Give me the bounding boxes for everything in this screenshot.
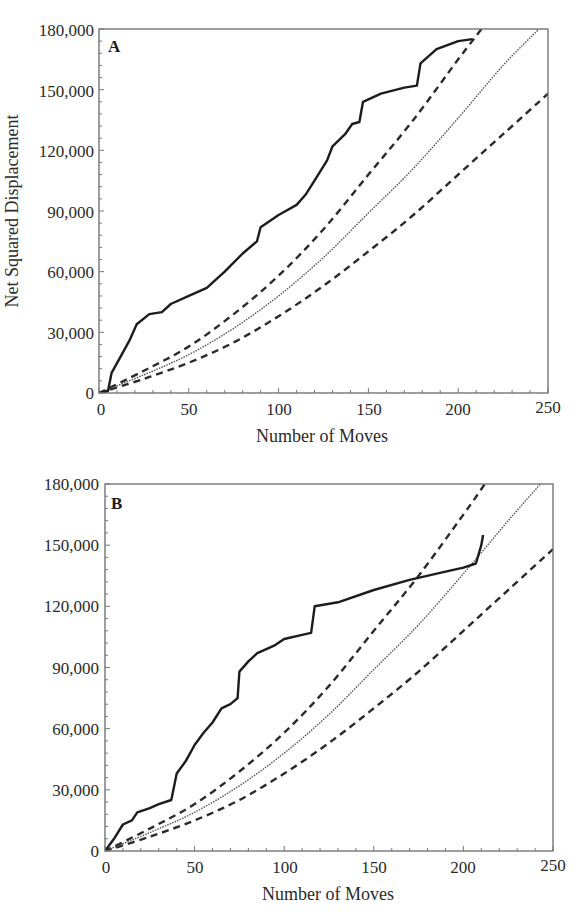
y-tick-label: 60,000 [52,720,99,739]
expected-line [99,29,539,393]
y-tick-labels: 0 30,000 60,000 90,000 120,000 150,000 1… [39,21,94,403]
y-tick-label: 90,000 [47,203,94,222]
series-group [105,484,553,851]
x-tick-label: 50 [181,400,198,419]
observed-line [99,39,473,393]
x-tick-label: 250 [535,398,561,417]
figure: A 0 30,000 60,000 90,000 120,000 150,000… [0,0,585,921]
y-tick-label: 0 [86,384,95,403]
x-tick-label: 200 [445,400,471,419]
x-tick-label: 150 [356,400,382,419]
x-tick-label: 250 [540,856,566,875]
lower-bound-line [99,94,548,393]
x-tick-label: 0 [102,858,111,877]
x-tick-label: 150 [361,858,387,877]
x-tick-label: 100 [272,858,298,877]
y-axis-title: Net Squared Displacement [2,115,22,308]
y-tick-label: 30,000 [47,324,94,343]
y-tick-labels: 0 30,000 60,000 90,000 120,000 150,000 1… [44,475,99,861]
expected-line [105,484,541,851]
y-tick-label: 150,000 [39,82,94,101]
upper-bound-line [105,484,485,851]
y-tick-label: 150,000 [44,536,99,555]
lower-bound-line [105,549,553,851]
y-tick-label: 60,000 [47,263,94,282]
x-axis-title: Number of Moves [262,884,394,904]
y-tick-label: 120,000 [44,597,99,616]
series-group [99,29,548,393]
y-tick-label: 0 [91,842,100,861]
panel-label: A [108,37,121,56]
x-tick-labels: 0 50 100 150 200 250 [97,398,561,419]
observed-line [105,535,483,851]
panel-label: B [111,494,122,513]
plot-frame [99,29,548,393]
y-tick-label: 90,000 [52,659,99,678]
x-tick-label: 50 [187,858,204,877]
y-tick-label: 120,000 [39,142,94,161]
x-tick-label: 0 [97,400,106,419]
x-tick-labels: 0 50 100 150 200 250 [102,856,566,877]
chart-panel-b: B 0 30,000 60,000 90,000 120,000 150,000… [44,475,566,904]
upper-bound-line [99,29,482,393]
x-axis-title: Number of Moves [256,426,388,446]
x-tick-label: 200 [450,858,476,877]
y-tick-label: 30,000 [52,781,99,800]
y-tick-label: 180,000 [39,21,94,40]
x-tick-label: 100 [266,400,292,419]
minor-ticks [99,29,548,393]
y-tick-label: 180,000 [44,475,99,494]
chart-panel-a: A 0 30,000 60,000 90,000 120,000 150,000… [2,21,561,446]
